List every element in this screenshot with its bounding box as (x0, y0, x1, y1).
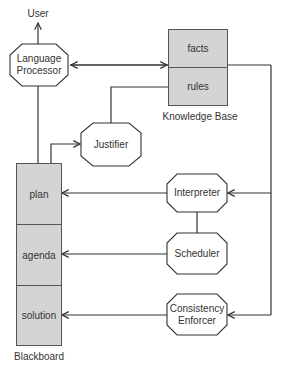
consistency-enforcer-node: Consistency Enforcer (167, 294, 227, 335)
blackboard-plan: plan (17, 164, 61, 224)
blackboard-solution: solution (17, 285, 61, 345)
knowledge-base-store: facts rules (168, 29, 228, 106)
blackboard-title: Blackboard (6, 351, 72, 363)
arrow-blackboard-to-justifier (51, 144, 80, 163)
scheduler-node: Scheduler (167, 233, 227, 274)
justifier-node: Justifier (81, 123, 141, 166)
interpreter-node: Interpreter (167, 174, 227, 212)
knowledge-base-title: Knowledge Base (155, 111, 245, 123)
kb-rules: rules (169, 67, 227, 105)
blackboard-store: plan agenda solution (16, 163, 62, 346)
user-label: User (22, 8, 54, 20)
language-processor-node: Language Processor (10, 44, 68, 86)
blackboard-agenda: agenda (17, 224, 61, 285)
kb-facts: facts (169, 30, 227, 67)
